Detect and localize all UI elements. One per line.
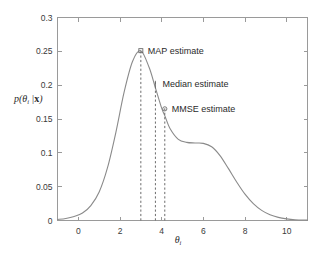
y-axis-tick-labels: 00.050.10.150.20.250.3 xyxy=(36,13,53,226)
x-tick-label: 2 xyxy=(118,226,123,236)
posterior-density-chart: 0246810 00.050.10.150.20.250.3 MAP estim… xyxy=(0,0,324,255)
estimate-annotation-labels: MAP estimateMedian estimateMMSE estimate xyxy=(148,46,235,114)
y-tick-label: 0.05 xyxy=(36,182,53,192)
y-tick-label: 0.1 xyxy=(41,148,53,158)
x-tick-label: 0 xyxy=(76,226,81,236)
x-axis-tick-labels: 0246810 xyxy=(76,226,292,236)
x-title-subscript: i xyxy=(180,239,182,246)
x-tick-label: 10 xyxy=(282,226,292,236)
estimate-dashed-lines xyxy=(141,49,165,221)
annotation-label-mmse: MMSE estimate xyxy=(172,104,236,114)
y-tick-label: 0 xyxy=(48,216,53,226)
density-curve xyxy=(58,51,308,221)
annotation-label-map: MAP estimate xyxy=(148,46,204,56)
svg-text:θi: θi xyxy=(175,234,182,246)
svg-text:p(θi |x): p(θi |x) xyxy=(13,93,43,105)
x-tick-label: 6 xyxy=(201,226,206,236)
x-tick-label: 4 xyxy=(159,226,164,236)
figure-canvas: 0246810 00.050.10.150.20.250.3 MAP estim… xyxy=(0,0,324,255)
y-tick-label: 0.25 xyxy=(36,46,53,56)
x-axis-title: θi xyxy=(175,234,182,246)
y-tick-label: 0.2 xyxy=(41,80,53,90)
y-tick-label: 0.3 xyxy=(41,13,53,23)
annotation-label-median: Median estimate xyxy=(162,79,228,89)
y-axis-title: p(θi |x) xyxy=(13,93,43,105)
x-tick-label: 8 xyxy=(243,226,248,236)
y-tick-label: 0.15 xyxy=(36,114,53,124)
